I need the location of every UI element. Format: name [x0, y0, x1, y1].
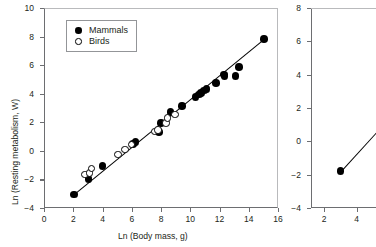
y-tick-label: 6: [12, 61, 34, 70]
y-tick-label: 6: [279, 37, 301, 46]
x-tick-label: 2: [314, 215, 334, 224]
x-tick-label: 6: [122, 215, 142, 224]
y-tick: [40, 94, 44, 95]
filled-circle-icon: [73, 27, 84, 34]
x-tick: [132, 208, 133, 212]
x-tick: [357, 208, 358, 212]
x-tick: [103, 208, 104, 212]
data-point-mammals: [212, 79, 220, 87]
y-tick: [40, 151, 44, 152]
x-tick-label: 8: [151, 215, 171, 224]
y-tick-label: 0: [279, 137, 301, 146]
x-tick: [190, 208, 191, 212]
y-tick: [307, 41, 311, 42]
x-tick: [44, 208, 45, 212]
data-point-mammals: [178, 102, 186, 110]
y-tick: [40, 37, 44, 38]
open-circle-icon: [73, 38, 84, 45]
x-tick-label: 16: [268, 215, 288, 224]
legend-item-birds: Birds: [73, 36, 128, 47]
data-point-mammals: [221, 73, 229, 81]
x-tick: [249, 208, 250, 212]
data-point-mammals: [70, 191, 78, 199]
x-tick-label: 2: [63, 215, 83, 224]
legend-box: Mammals Birds: [66, 20, 137, 52]
data-point-mammals: [232, 72, 240, 80]
y-tick-label: −4: [279, 204, 301, 213]
data-point-birds: [121, 146, 128, 153]
data-point-birds: [88, 165, 95, 172]
data-point-mammals: [260, 35, 268, 43]
x-tick-label: 0: [34, 215, 54, 224]
x-tick-label: 14: [239, 215, 259, 224]
x-tick: [220, 208, 221, 212]
y-tick: [307, 208, 311, 209]
y-tick: [307, 75, 311, 76]
data-point-mammals: [235, 63, 243, 71]
y-tick-label: 2: [279, 104, 301, 113]
x-tick-label: 10: [180, 215, 200, 224]
x-tick-label: 4: [347, 215, 367, 224]
x-axis-title: Ln (Body mass, g): [118, 231, 188, 241]
y-tick-label: 10: [12, 4, 34, 13]
chart-panel-left: Ln (Resting metabolism, W) Ln (Body mass…: [0, 0, 290, 247]
y-tick-label: 4: [279, 71, 301, 80]
y-tick-label: 2: [12, 118, 34, 127]
x-tick-label: 12: [210, 215, 230, 224]
chart-panel-right: −4−20246824: [290, 0, 376, 247]
y-tick: [307, 175, 311, 176]
x-tick: [73, 208, 74, 212]
y-tick-label: 4: [12, 90, 34, 99]
y-tick: [307, 108, 311, 109]
y-tick-label: 8: [279, 4, 301, 13]
y-tick-label: 8: [12, 33, 34, 42]
plot-area-right: [311, 8, 376, 208]
y-tick-label: −2: [279, 171, 301, 180]
y-tick: [40, 8, 44, 9]
legend-item-mammals: Mammals: [73, 25, 128, 36]
data-point-birds: [154, 126, 161, 133]
data-point-mammals: [99, 162, 107, 170]
x-tick: [324, 208, 325, 212]
data-point-birds: [171, 111, 178, 118]
x-tick: [161, 208, 162, 212]
y-tick: [40, 65, 44, 66]
x-tick-label: 4: [93, 215, 113, 224]
y-tick-label: −4: [12, 204, 34, 213]
legend-label-birds: Birds: [89, 37, 110, 46]
data-point-mammals: [203, 85, 211, 93]
legend-label-mammals: Mammals: [89, 26, 128, 35]
y-tick: [307, 8, 311, 9]
y-tick: [40, 122, 44, 123]
data-point-mammals: [337, 167, 345, 175]
data-point-birds: [164, 114, 171, 121]
y-tick: [307, 141, 311, 142]
y-tick: [40, 179, 44, 180]
y-tick-label: −2: [12, 175, 34, 184]
y-tick-label: 0: [12, 147, 34, 156]
regression-line: [341, 132, 376, 172]
figure-root: Ln (Resting metabolism, W) Ln (Body mass…: [0, 0, 376, 247]
data-point-birds: [114, 151, 121, 158]
